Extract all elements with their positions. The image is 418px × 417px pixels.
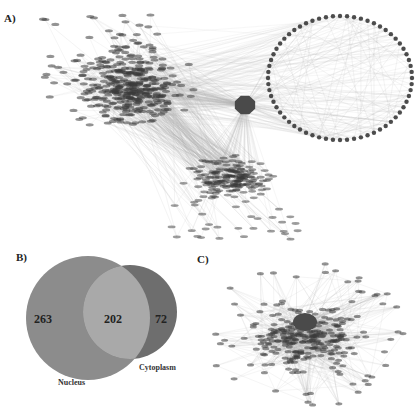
network-c xyxy=(0,0,418,417)
hub-node-c xyxy=(293,313,317,331)
